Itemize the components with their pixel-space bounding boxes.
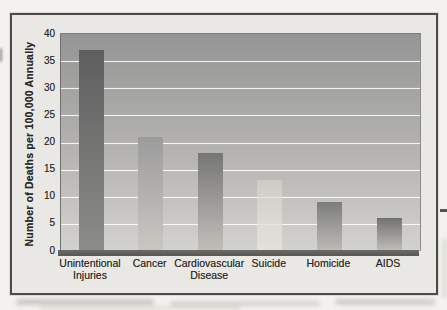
plot-area <box>60 33 421 251</box>
y-tick-10: 10 <box>18 189 55 202</box>
scan-smudge <box>335 299 435 305</box>
gridline-15 <box>61 170 420 171</box>
y-tick-20: 20 <box>18 135 55 148</box>
bar-homicide <box>317 202 342 251</box>
bar-suicide <box>257 180 282 251</box>
scan-smudge <box>16 299 154 305</box>
bar-aids <box>377 218 402 251</box>
scanned-page: Number of Deaths per 100,000 Annually 05… <box>0 0 447 310</box>
scan-smudge <box>0 48 2 62</box>
bar-cancer <box>138 137 163 251</box>
scan-smudge <box>40 306 240 310</box>
gridline-25 <box>61 115 420 116</box>
x-axis-baseline <box>58 250 419 256</box>
y-tick-35: 35 <box>18 54 55 67</box>
x-label-line: Injuries <box>40 269 140 281</box>
y-tick-25: 25 <box>18 108 55 121</box>
y-tick-0: 0 <box>18 244 55 257</box>
gridline-30 <box>61 88 420 89</box>
x-label-line: AIDS <box>338 257 438 269</box>
y-tick-40: 40 <box>18 27 55 40</box>
gridline-20 <box>61 143 420 144</box>
y-tick-5: 5 <box>18 216 55 229</box>
scan-smudge <box>443 238 446 298</box>
y-tick-15: 15 <box>18 162 55 175</box>
gridline-10 <box>61 197 420 198</box>
x-label-line: Disease <box>159 269 259 281</box>
gridline-5 <box>61 224 420 225</box>
bar-unintentional-injuries <box>79 50 104 251</box>
bar-cardiovascular-disease <box>198 153 223 251</box>
gridline-35 <box>61 61 420 62</box>
margin-dash-mark <box>440 209 447 212</box>
y-tick-30: 30 <box>18 81 55 94</box>
x-label-aids: AIDS <box>338 257 438 269</box>
